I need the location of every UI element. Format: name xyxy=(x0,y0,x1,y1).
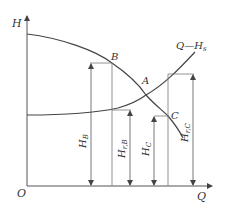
point-B-label: B xyxy=(110,51,118,62)
H_B-label: HB xyxy=(77,134,90,149)
y-axis-label: H xyxy=(11,17,22,30)
H_rC-label-sub: r,C xyxy=(184,122,192,133)
system-curve-label-sub: s xyxy=(203,45,207,53)
H_rC-label: Hr,C xyxy=(179,122,192,143)
svg-text:Hr,B: Hr,B xyxy=(116,139,129,159)
H_rB-label: Hr,B xyxy=(116,139,129,159)
H_rC-label-main: H xyxy=(179,133,190,143)
H_rB-label-main: H xyxy=(116,149,127,159)
svg-text:HC: HC xyxy=(140,141,153,157)
H_C-label-sub: C xyxy=(145,141,153,147)
point-C-label: C xyxy=(171,110,179,121)
H_B-label-main: H xyxy=(77,139,88,149)
H_C-label: HC xyxy=(140,141,153,157)
svg-text:HB: HB xyxy=(77,134,90,149)
diagram-canvas: H Q O Q—Hs B A C HB Hr,B HC Hr,C xyxy=(0,0,228,213)
H_rB-label-sub: r,B xyxy=(121,139,129,149)
x-axis-label: Q xyxy=(197,190,206,203)
system-curve-label: Q—Hs xyxy=(176,40,207,53)
H_B-label-sub: B xyxy=(82,134,90,140)
svg-text:Hr,C: Hr,C xyxy=(179,122,192,143)
origin-label: O xyxy=(17,187,26,200)
point-A-label: A xyxy=(141,75,149,86)
pump-system-curve-diagram: H Q O Q—Hs B A C HB Hr,B HC Hr,C xyxy=(0,0,228,213)
system-curve-label-main: Q—H xyxy=(176,40,203,51)
H_C-label-main: H xyxy=(140,147,151,157)
